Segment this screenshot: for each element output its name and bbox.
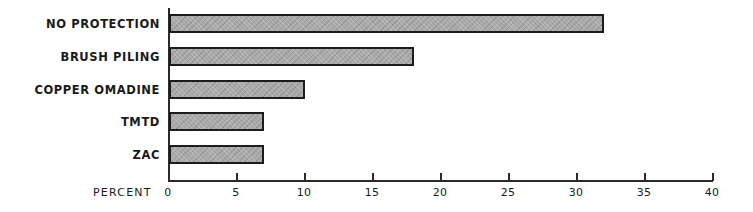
category-label: TMTD xyxy=(121,115,160,129)
x-tick-mark xyxy=(644,173,646,181)
x-tick-label: 40 xyxy=(697,186,727,199)
category-label: BRUSH PILING xyxy=(61,50,160,64)
x-tick-mark xyxy=(508,173,510,181)
x-tick-label: 20 xyxy=(425,186,455,199)
x-tick-label: 0 xyxy=(153,186,183,199)
x-tick-label: 10 xyxy=(289,186,319,199)
x-tick-label: 15 xyxy=(357,186,387,199)
x-tick-mark xyxy=(576,173,578,181)
bar xyxy=(169,145,264,164)
x-tick-mark xyxy=(304,173,306,181)
x-tick-mark xyxy=(236,173,238,181)
bar xyxy=(169,14,604,33)
category-label: NO PROTECTION xyxy=(46,17,160,31)
x-tick-label: 5 xyxy=(221,186,251,199)
x-tick-label: 30 xyxy=(561,186,591,199)
x-tick-label: 35 xyxy=(629,186,659,199)
category-label: COPPER OMADINE xyxy=(34,83,160,97)
bar xyxy=(169,47,414,66)
x-tick-mark xyxy=(372,173,374,181)
x-tick-label: 25 xyxy=(493,186,523,199)
x-tick-mark xyxy=(712,173,714,181)
x-tick-mark xyxy=(440,173,442,181)
category-label: ZAC xyxy=(133,148,160,162)
bar xyxy=(169,112,264,131)
x-axis-title: PERCENT xyxy=(93,186,152,199)
bar xyxy=(169,80,305,99)
